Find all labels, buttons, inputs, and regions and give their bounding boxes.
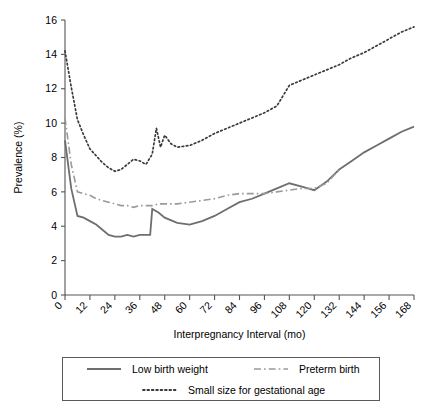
- x-tick-label: 36: [122, 299, 139, 316]
- x-tick-label: 132: [318, 299, 339, 320]
- legend-row-2: Small size for gestational age: [63, 379, 379, 400]
- x-tick-label: 60: [172, 299, 189, 316]
- x-tick-label: 108: [268, 299, 289, 320]
- legend-swatch-dotted-icon: [141, 385, 179, 395]
- legend-swatch-dash-dot-icon: [252, 364, 290, 374]
- y-axis-title: Prevalence (%): [12, 122, 24, 194]
- series-line-preterm-birth: [65, 118, 339, 207]
- axes: 0246810121416012243648607284961081201321…: [45, 14, 414, 320]
- x-tick-label: 12: [73, 299, 90, 316]
- x-tick-label: 96: [247, 299, 264, 316]
- y-tick-label: 12: [45, 82, 57, 94]
- legend-item-preterm-birth: Preterm birth: [252, 363, 360, 375]
- y-tick-label: 8: [51, 151, 57, 163]
- x-tick-label: 0: [52, 299, 65, 312]
- y-tick-label: 16: [45, 14, 57, 26]
- x-tick-label: 168: [393, 299, 414, 320]
- x-tick-label: 72: [197, 299, 214, 316]
- legend-swatch-solid-icon: [85, 364, 123, 374]
- y-tick-label: 6: [51, 186, 57, 198]
- plot-area: 0246810121416012243648607284961081201321…: [0, 0, 441, 410]
- chart-legend: Low birth weight Preterm birth Small siz…: [62, 357, 380, 401]
- legend-label-small-size-for-gestational-age: Small size for gestational age: [188, 384, 325, 396]
- x-tick-label: 48: [147, 299, 164, 316]
- series-line-small-size-for-gestational-age: [65, 27, 414, 171]
- y-tick-label: 10: [45, 117, 57, 129]
- legend-item-small-size-for-gestational-age: Small size for gestational age: [141, 384, 325, 396]
- x-axis-title: Interpregnancy Interval (mo): [174, 328, 306, 340]
- x-tick-label: 156: [368, 299, 389, 320]
- legend-label-low-birth-weight: Low birth weight: [132, 363, 208, 375]
- x-tick-label: 144: [343, 299, 364, 320]
- y-tick-label: 4: [51, 220, 57, 232]
- chart-figure: 0246810121416012243648607284961081201321…: [0, 0, 441, 410]
- x-tick-label: 120: [293, 299, 314, 320]
- chart-svg: 0246810121416012243648607284961081201321…: [0, 0, 441, 410]
- series-line-low-birth-weight: [65, 127, 414, 237]
- y-tick-label: 0: [51, 289, 57, 301]
- legend-item-low-birth-weight: Low birth weight: [85, 363, 208, 375]
- x-tick-label: 84: [222, 299, 239, 316]
- series-group: [65, 27, 414, 237]
- x-tick-label: 24: [98, 299, 115, 316]
- y-tick-label: 14: [45, 48, 57, 60]
- legend-row-1: Low birth weight Preterm birth: [63, 358, 379, 379]
- legend-label-preterm-birth: Preterm birth: [299, 363, 360, 375]
- y-tick-label: 2: [51, 254, 57, 266]
